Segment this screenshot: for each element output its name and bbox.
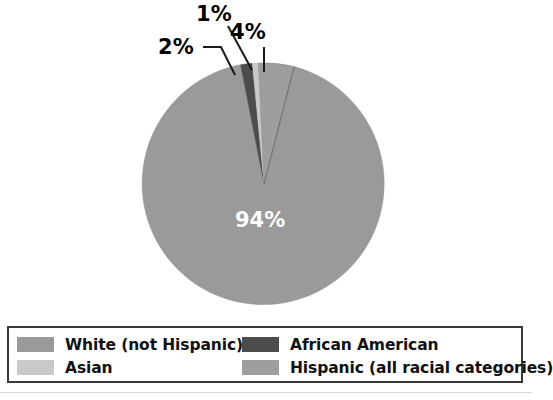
- legend-label-hispanic: Hispanic (all racial categories): [290, 359, 553, 377]
- legend-swatch-icon-hispanic: [242, 360, 279, 375]
- legend-swatch-icon-african-american: [242, 337, 279, 352]
- legend-swatch-icon-white-not-hispanic: [17, 337, 54, 352]
- legend-item-white-not-hispanic[interactable]: White (not Hispanic): [17, 336, 242, 354]
- legend-label-african-american: African American: [290, 336, 438, 354]
- legend-label-white-not-hispanic: White (not Hispanic): [65, 336, 243, 354]
- slice-label-white-not-hispanic: 94%: [235, 208, 285, 232]
- slice-label-african-american: 2%: [158, 35, 194, 59]
- legend: White (not Hispanic) African American As…: [7, 326, 523, 383]
- slice-label-hispanic: 4%: [230, 20, 266, 44]
- bottom-divider: [0, 392, 532, 393]
- legend-label-asian: Asian: [65, 359, 113, 377]
- legend-item-african-american[interactable]: African American: [242, 336, 517, 354]
- legend-item-asian[interactable]: Asian: [17, 359, 242, 377]
- slice-label-asian: 1%: [196, 2, 232, 26]
- legend-swatch-icon-asian: [17, 360, 54, 375]
- legend-item-hispanic[interactable]: Hispanic (all racial categories): [242, 359, 517, 377]
